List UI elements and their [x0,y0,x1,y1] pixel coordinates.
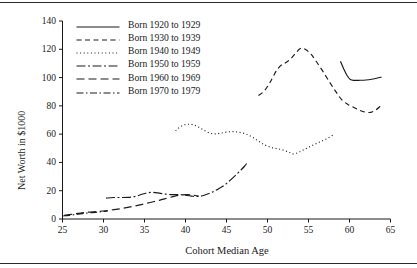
x-tick-label: 50 [263,225,273,235]
legend-label: Born 1950 to 1959 [128,59,200,69]
x-tick-label: 35 [140,225,150,235]
x-tick-label: 60 [345,225,355,235]
series-line-3 [106,162,248,198]
legend-item-1[interactable]: Born 1930 to 1939 [76,31,200,44]
y-tick-label: 0 [30,214,56,224]
series-line-0 [340,61,381,80]
legend-item-5[interactable]: Born 1970 to 1979 [76,84,200,97]
chart-legend: Born 1920 to 1929Born 1930 to 1939Born 1… [76,18,200,97]
legend-line-swatch [76,58,120,70]
x-tick-label: 25 [58,225,68,235]
y-tick-label: 40 [30,157,56,167]
legend-item-4[interactable]: Born 1960 to 1969 [76,71,200,84]
series-line-2 [176,124,333,154]
legend-line-swatch [76,19,120,31]
legend-line-swatch [76,71,120,83]
y-tick-label: 120 [30,44,56,54]
legend-label: Born 1940 to 1949 [128,46,200,56]
x-tick-label: 65 [386,225,396,235]
x-tick-label: 45 [222,225,232,235]
y-tick-label: 140 [30,16,56,26]
y-tick-label: 80 [30,101,56,111]
y-tick-label: 20 [30,186,56,196]
legend-line-swatch [76,85,120,97]
legend-label: Born 1970 to 1979 [128,86,200,96]
legend-label: Born 1920 to 1929 [128,20,200,30]
x-tick-label: 55 [304,225,314,235]
series-line-5 [63,211,107,216]
x-axis-title: Cohort Median Age [185,245,268,256]
figure-container: 020406080100120140 253035404550556065 Ne… [0,0,417,268]
legend-label: Born 1960 to 1969 [128,73,200,83]
legend-line-swatch [76,32,120,44]
legend-item-3[interactable]: Born 1950 to 1959 [76,58,200,71]
legend-item-0[interactable]: Born 1920 to 1929 [76,18,200,31]
legend-line-swatch [76,45,120,57]
legend-item-2[interactable]: Born 1940 to 1949 [76,44,200,57]
y-axis-title: Net Worth in $1000 [16,111,27,190]
y-tick-label: 100 [30,73,56,83]
x-tick-label: 30 [99,225,109,235]
y-tick-label: 60 [30,129,56,139]
legend-label: Born 1930 to 1939 [128,33,200,43]
x-tick-label: 40 [181,225,191,235]
series-line-4 [64,195,198,216]
